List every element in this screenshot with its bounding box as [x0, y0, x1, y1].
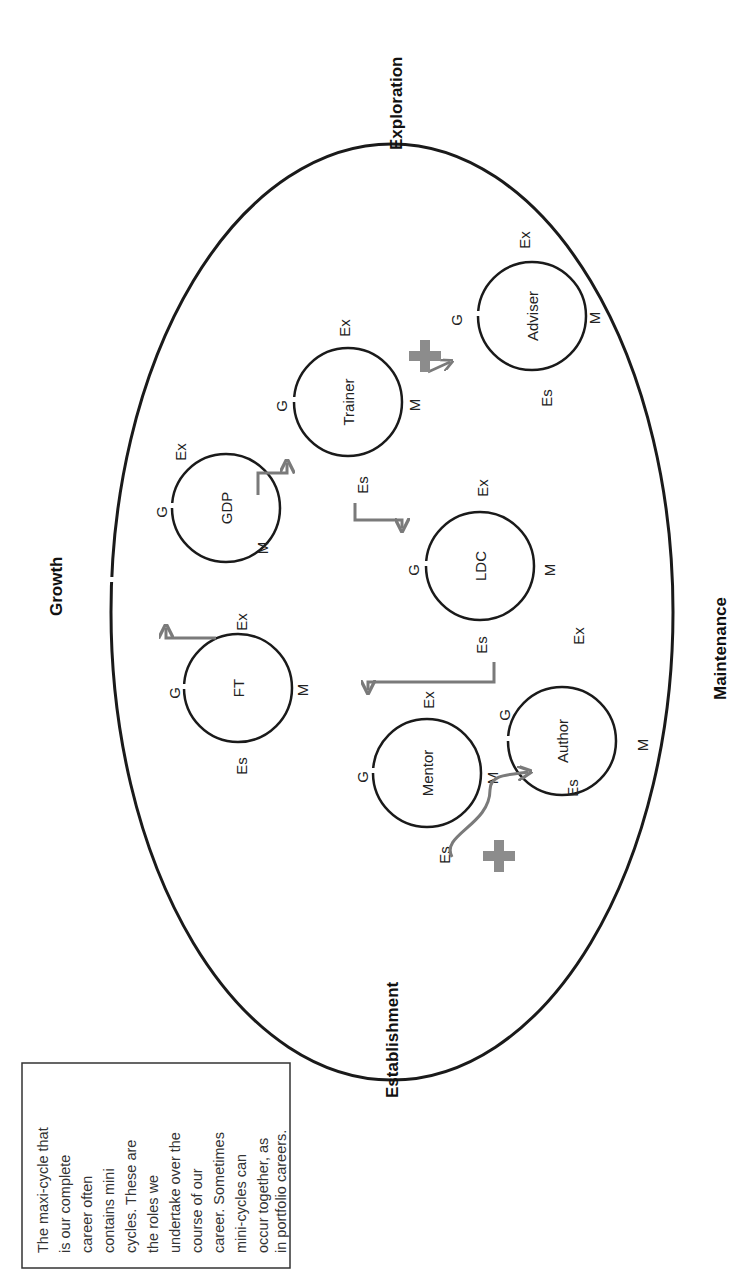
- note-line: career often: [79, 1176, 95, 1253]
- plus-icon: [483, 840, 515, 872]
- role-label-trainer: Trainer: [340, 379, 357, 426]
- role-cycle-ldc: LDC G Ex M Es: [405, 479, 558, 654]
- phase-ex: Ex: [233, 613, 250, 631]
- arrow-trainer-to-adviser: [428, 362, 450, 372]
- note-line: The maxi-cycle that: [35, 1127, 51, 1253]
- phase-ex: Ex: [516, 231, 533, 249]
- stage-label-maintenance: Maintenance: [711, 597, 730, 700]
- role-label-ft: FT: [230, 679, 247, 697]
- role-label-adviser: Adviser: [524, 291, 541, 341]
- note-line: contains mini: [101, 1168, 117, 1253]
- phase-ex: Ex: [570, 627, 587, 645]
- role-label-gdp: GDP: [218, 492, 235, 525]
- role-cycle-mentor: Mentor G Ex M Es: [354, 691, 501, 864]
- role-label-mentor: Mentor: [419, 750, 436, 797]
- phase-g: G: [405, 564, 422, 576]
- note-line: undertake over the: [167, 1132, 183, 1253]
- note-line: occur together, as: [255, 1138, 271, 1253]
- stage-label-establishment: Establishment: [383, 981, 402, 1098]
- phase-ex: Ex: [336, 319, 353, 337]
- note-line: in portfolio careers.: [273, 1130, 289, 1253]
- phase-m: M: [586, 312, 603, 325]
- phase-g: G: [153, 506, 170, 518]
- phase-es: Es: [564, 779, 581, 797]
- phase-m: M: [634, 739, 651, 752]
- role-cycle-adviser: Adviser G Ex M Es: [448, 231, 603, 407]
- phase-es: Es: [354, 476, 371, 494]
- role-cycle-gdp: GDP G Ex M: [153, 443, 280, 562]
- maxi-cycle-ellipse: [105, 144, 673, 1080]
- note-line: course of our: [189, 1168, 205, 1253]
- phase-es: Es: [233, 757, 250, 775]
- note-line: is our complete: [57, 1155, 73, 1253]
- arrow-trainer-to-ldc: [355, 503, 402, 528]
- phase-m: M: [294, 684, 311, 697]
- phase-g: G: [496, 709, 513, 721]
- role-label-ldc: LDC: [472, 551, 489, 581]
- role-label-author: Author: [554, 719, 571, 763]
- note-box: The maxi-cycle that is our complete care…: [22, 1063, 290, 1268]
- phase-m: M: [254, 542, 271, 555]
- phase-ex: Ex: [474, 479, 491, 497]
- role-cycle-trainer: Trainer G Ex M Es: [273, 319, 423, 494]
- role-cycle-author: Author G Ex M Es: [496, 627, 651, 797]
- stage-label-exploration: Exploration: [387, 56, 406, 150]
- phase-g: G: [273, 400, 290, 412]
- phase-g: G: [166, 687, 183, 699]
- phase-m: M: [406, 399, 423, 412]
- phase-m: M: [541, 564, 558, 577]
- career-cycle-diagram: Exploration Growth Maintenance Establish…: [0, 0, 748, 1269]
- note-line: cycles. These are: [123, 1140, 139, 1253]
- phase-g: G: [354, 771, 371, 783]
- arrow-ldc-to-mentor: [368, 662, 494, 690]
- phase-g: G: [448, 314, 465, 326]
- note-line: career. Sometimes: [211, 1132, 227, 1253]
- phase-es: Es: [473, 636, 490, 654]
- note-line: the roles we: [145, 1175, 161, 1253]
- arrow-ft-to-gdp: [166, 628, 216, 638]
- phase-ex: Ex: [172, 443, 189, 461]
- phase-es: Es: [538, 389, 555, 407]
- phase-ex: Ex: [420, 691, 437, 709]
- stage-label-growth: Growth: [47, 557, 66, 617]
- note-line: mini-cycles can: [233, 1154, 249, 1253]
